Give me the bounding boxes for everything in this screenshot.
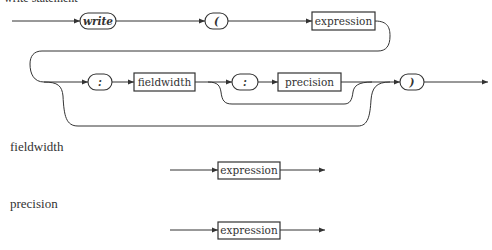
arrow-icon [306,19,312,24]
arrow-icon [226,80,232,85]
svg-text:fieldwidth: fieldwidth [138,76,192,88]
arrow-icon [482,80,488,85]
rule-precision-expression: expression [218,222,280,239]
arrow-icon [128,80,134,85]
svg-text:expression: expression [220,224,278,236]
nonterminal-expression: expression [312,12,375,30]
terminal-colon-2: : [232,74,258,90]
arrow-icon [199,19,205,24]
terminal-rparen: ) [400,74,424,90]
rule-fieldwidth-expression: expression [218,162,280,179]
arrow-icon [82,80,88,85]
rule-label-fieldwidth: fieldwidth [10,139,63,155]
svg-text:expression: expression [315,15,373,27]
arrow-icon [319,228,325,233]
arrow-icon [212,168,218,173]
svg-text:precision: precision [285,76,334,88]
svg-text:): ) [409,76,415,88]
svg-text::: : [98,76,102,88]
svg-text::: : [243,76,247,88]
terminal-colon-1: : [88,74,112,90]
nonterminal-fieldwidth: fieldwidth [134,73,195,91]
arrow-icon [394,80,400,85]
nonterminal-precision: precision [278,73,341,91]
arrow-icon [74,19,80,24]
terminal-lparen: ( [205,13,228,29]
rule-label-precision: precision [10,196,58,212]
arrow-icon [272,80,278,85]
syntax-diagram: write ( expression : fieldwidth : precis… [0,0,492,250]
svg-text:write: write [83,15,113,27]
arrow-icon [319,168,325,173]
svg-text:expression: expression [220,164,278,176]
arrow-icon [212,228,218,233]
terminal-write: write [80,13,116,29]
